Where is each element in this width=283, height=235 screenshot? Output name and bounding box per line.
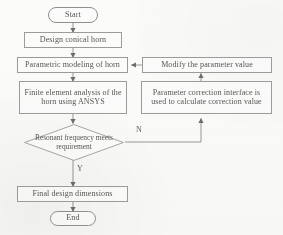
node-parametric-modeling[interactable]: Parametric modeling of horn (17, 57, 128, 73)
node-modify-parameter-value-label: Modify the parameter value (161, 61, 253, 70)
node-design-conical-horn-label: Design conical horn (40, 36, 106, 45)
node-design-conical-horn[interactable]: Design conical horn (24, 32, 122, 48)
node-decision-label: Resonant frequency meets requirement (24, 124, 124, 161)
node-final-design-dimensions-label: Final design dimensions (32, 190, 112, 199)
node-parameter-correction-interface-label: Parameter correction interface is used t… (145, 89, 268, 106)
edge-label-yes: Y (77, 164, 83, 173)
node-parameter-correction-interface[interactable]: Parameter correction interface is used t… (141, 81, 272, 114)
node-modify-parameter-value[interactable]: Modify the parameter value (142, 57, 272, 73)
node-end[interactable]: End (50, 211, 96, 226)
node-finite-element-analysis[interactable]: Finite element analysis of the horn usin… (19, 81, 127, 114)
edge-label-no: N (136, 125, 142, 134)
node-parametric-modeling-label: Parametric modeling of horn (25, 61, 120, 70)
node-start[interactable]: Start (48, 7, 98, 23)
flowchart-canvas: Start Design conical horn Parametric mod… (0, 0, 283, 235)
node-start-label: Start (65, 11, 81, 20)
node-end-label: End (66, 214, 80, 223)
node-final-design-dimensions[interactable]: Final design dimensions (17, 186, 128, 202)
node-decision-resonant-frequency[interactable]: Resonant frequency meets requirement (24, 124, 124, 161)
node-finite-element-analysis-label: Finite element analysis of the horn usin… (23, 89, 123, 106)
